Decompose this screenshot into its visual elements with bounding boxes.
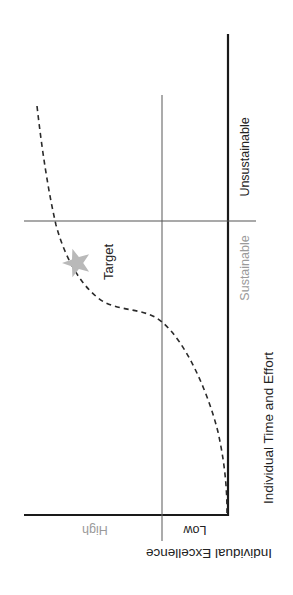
effort-excellence-curve	[37, 106, 227, 513]
region-label-low: Low	[183, 523, 207, 537]
region-label-high: High	[82, 523, 108, 537]
y-axis-title: Individual Excellence	[146, 546, 272, 561]
target-star-icon	[62, 249, 89, 278]
region-label-sustainable: Sustainable	[238, 235, 252, 300]
region-label-unsustainable: Unsustainable	[238, 117, 252, 196]
x-axis-title: Individual Time and Effort	[261, 352, 276, 504]
target-label: Target	[101, 244, 116, 281]
diagram-canvas: Target Unsustainable Sustainable Individ…	[0, 0, 293, 595]
